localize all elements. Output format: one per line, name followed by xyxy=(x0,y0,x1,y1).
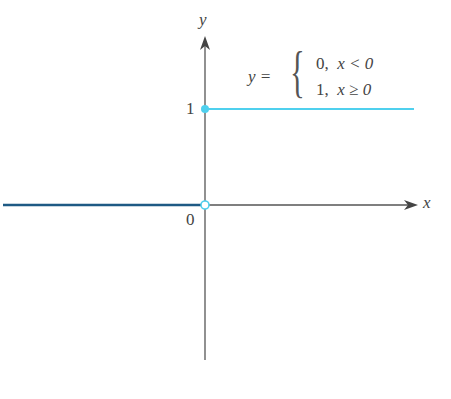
tick-label-one: 1 xyxy=(186,99,195,119)
formula-case-2: 1, x ≥ 0 xyxy=(316,80,371,100)
x-axis-label: x xyxy=(423,193,431,213)
formula-lhs: y = xyxy=(248,67,271,87)
y-axis-label: y xyxy=(199,10,207,30)
formula-case-1: 0, x < 0 xyxy=(316,54,373,74)
case-2-condition: x ≥ 0 xyxy=(337,80,371,99)
case-1-value: 0, xyxy=(316,54,329,73)
origin-label: 0 xyxy=(186,210,195,230)
brace-icon: { xyxy=(290,44,305,100)
closed-point xyxy=(201,105,209,113)
case-1-condition: x < 0 xyxy=(337,54,373,73)
open-point xyxy=(201,201,209,209)
piecewise-formula: y = { 0, x < 0 1, x ≥ 0 xyxy=(248,50,408,106)
case-2-value: 1, xyxy=(316,80,329,99)
